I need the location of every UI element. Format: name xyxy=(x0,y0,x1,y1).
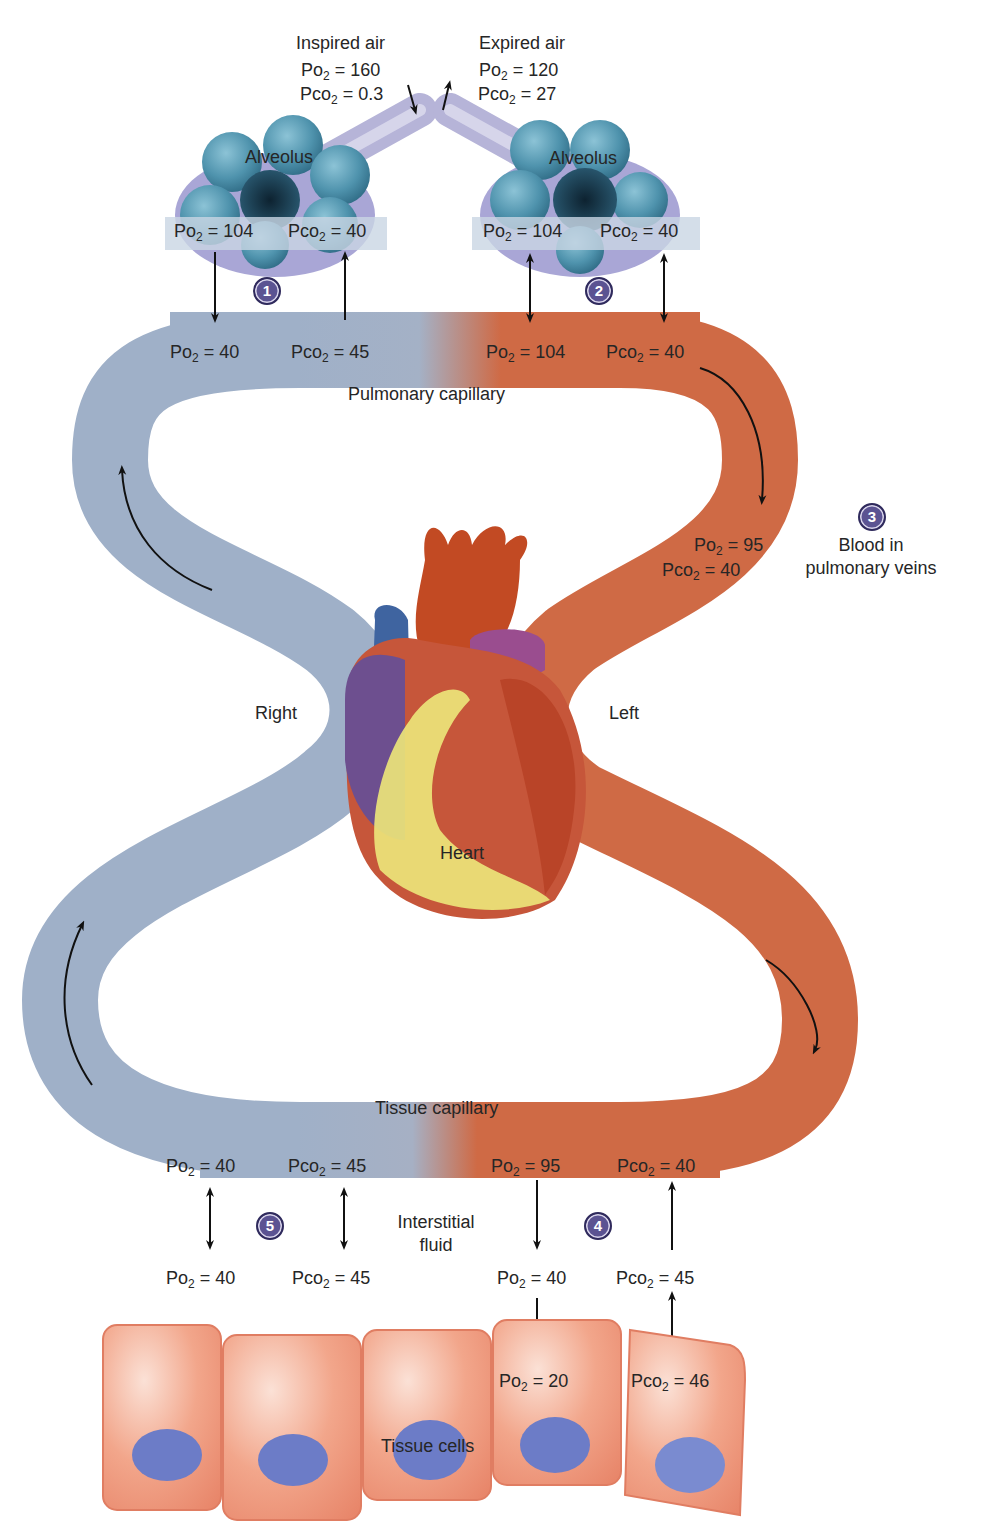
subscript: 2 xyxy=(505,230,512,244)
equals: = xyxy=(723,535,744,555)
alveolus-right-po2: Po2 = 104 xyxy=(483,221,562,241)
step-badge-1: 1 xyxy=(253,277,281,305)
subscript: 2 xyxy=(693,569,700,583)
inspired-po2: Po2 = 160 xyxy=(301,60,380,80)
alveolus-left-label: Alveolus xyxy=(245,147,313,167)
pulm-vein-po2: Po2 = 95 xyxy=(694,535,763,555)
value: 45 xyxy=(349,342,369,362)
po2-prefix: Po xyxy=(483,221,505,241)
pulm-cap-arterial-pco2: Pco2 = 40 xyxy=(606,342,684,362)
pco2-prefix: Pco xyxy=(291,342,322,362)
value: 40 xyxy=(215,1156,235,1176)
pco2-prefix: Pco xyxy=(288,1156,319,1176)
gas-exchange-diagram: Inspired air Po2 = 160 Pco2 = 0.3 Expire… xyxy=(0,0,986,1532)
value: 45 xyxy=(674,1268,694,1288)
po2-prefix: Po xyxy=(497,1268,519,1288)
tissue-cell-pco2: Pco2 = 46 xyxy=(631,1371,709,1391)
interstitial-left-po2: Po2 = 40 xyxy=(166,1268,235,1288)
pulmonary-veins-label-line1: Blood in xyxy=(796,535,946,555)
interstitial-right-pco2: Pco2 = 45 xyxy=(616,1268,694,1288)
subscript: 2 xyxy=(513,1165,520,1179)
expired-air-title: Expired air xyxy=(479,33,565,53)
subscript: 2 xyxy=(501,69,508,83)
tissue-cells-label: Tissue cells xyxy=(381,1436,474,1456)
equals: = xyxy=(203,221,224,241)
equals: = xyxy=(195,1156,216,1176)
equals: = xyxy=(508,60,529,80)
po2-prefix: Po xyxy=(166,1156,188,1176)
subscript: 2 xyxy=(648,1165,655,1179)
tissue-cell-po2: Po2 = 20 xyxy=(499,1371,568,1391)
equals: = xyxy=(700,560,721,580)
equals: = xyxy=(329,342,350,362)
subscript: 2 xyxy=(188,1165,195,1179)
po2-prefix: Po xyxy=(486,342,508,362)
subscript: 2 xyxy=(188,1277,195,1291)
pulm-cap-arterial-po2: Po2 = 104 xyxy=(486,342,565,362)
equals: = xyxy=(528,1371,549,1391)
value: 40 xyxy=(675,1156,695,1176)
subscript: 2 xyxy=(319,1165,326,1179)
step-badge-2: 2 xyxy=(585,277,613,305)
equals: = xyxy=(638,221,659,241)
po2-prefix: Po xyxy=(479,60,501,80)
left-side-label: Left xyxy=(609,703,639,723)
equals: = xyxy=(326,221,347,241)
value: 95 xyxy=(540,1156,560,1176)
step-badge-3: 3 xyxy=(858,503,886,531)
po2-prefix: Po xyxy=(166,1268,188,1288)
equals: = xyxy=(669,1371,690,1391)
expired-pco2: Pco2 = 27 xyxy=(478,84,556,104)
subscript: 2 xyxy=(508,351,515,365)
subscript: 2 xyxy=(319,230,326,244)
interstitial-fluid-label-line1: Interstitial xyxy=(376,1212,496,1232)
pulmonary-capillary-label: Pulmonary capillary xyxy=(348,384,505,404)
po2-prefix: Po xyxy=(170,342,192,362)
equals: = xyxy=(326,1156,347,1176)
pco2-prefix: Pco xyxy=(288,221,319,241)
interstitial-left-pco2: Pco2 = 45 xyxy=(292,1268,370,1288)
subscript: 2 xyxy=(519,1277,526,1291)
subscript: 2 xyxy=(521,1380,528,1394)
pco2-prefix: Pco xyxy=(300,84,331,104)
subscript: 2 xyxy=(323,69,330,83)
subscript: 2 xyxy=(323,1277,330,1291)
equals: = xyxy=(512,221,533,241)
pco2-prefix: Pco xyxy=(478,84,509,104)
equals: = xyxy=(520,1156,541,1176)
pulmonary-veins-label-line2: pulmonary veins xyxy=(796,558,946,578)
equals: = xyxy=(330,60,351,80)
alveolus-right-label: Alveolus xyxy=(549,148,617,168)
step-badge-5: 5 xyxy=(256,1212,284,1240)
equals: = xyxy=(515,342,536,362)
right-side-label: Right xyxy=(255,703,297,723)
equals: = xyxy=(526,1268,547,1288)
interstitial-fluid-label-line2: fluid xyxy=(376,1235,496,1255)
value: 27 xyxy=(536,84,556,104)
value: 120 xyxy=(528,60,558,80)
value: 45 xyxy=(350,1268,370,1288)
subscript: 2 xyxy=(716,544,723,558)
value: 104 xyxy=(223,221,253,241)
value: 40 xyxy=(215,1268,235,1288)
po2-prefix: Po xyxy=(174,221,196,241)
pco2-prefix: Pco xyxy=(616,1268,647,1288)
tissue-cap-venous-po2: Po2 = 40 xyxy=(166,1156,235,1176)
value: 46 xyxy=(689,1371,709,1391)
pco2-prefix: Pco xyxy=(617,1156,648,1176)
value: 20 xyxy=(548,1371,568,1391)
equals: = xyxy=(338,84,359,104)
subscript: 2 xyxy=(637,351,644,365)
value: 104 xyxy=(532,221,562,241)
inspired-air-title: Inspired air xyxy=(296,33,385,53)
subscript: 2 xyxy=(331,93,338,107)
pulm-cap-venous-pco2: Pco2 = 45 xyxy=(291,342,369,362)
equals: = xyxy=(195,1268,216,1288)
subscript: 2 xyxy=(322,351,329,365)
equals: = xyxy=(199,342,220,362)
value: 95 xyxy=(743,535,763,555)
value: 160 xyxy=(350,60,380,80)
subscript: 2 xyxy=(662,1380,669,1394)
tissue-cap-arterial-po2: Po2 = 95 xyxy=(491,1156,560,1176)
value: 45 xyxy=(346,1156,366,1176)
